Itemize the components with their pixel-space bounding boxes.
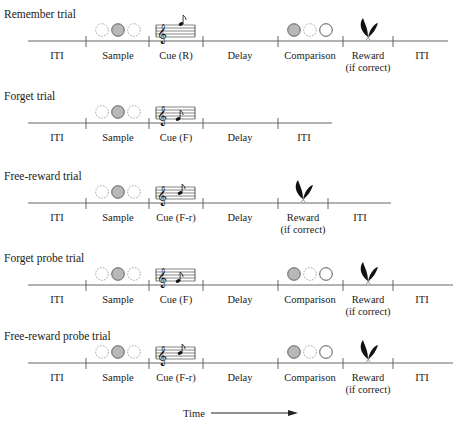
phase-label: Reward <box>352 372 385 383</box>
trial-title: Forget trial <box>4 90 55 103</box>
phase-sublabel: (if correct) <box>345 384 391 396</box>
phase-label: Reward <box>352 50 385 61</box>
trial-title: Remember trial <box>4 8 76 20</box>
trial-title: Free-reward probe trial <box>4 330 111 343</box>
treble-clef-icon: 𝄞 <box>157 105 167 126</box>
comparison-stimuli <box>288 24 333 37</box>
dashed-stimulus-icon <box>96 268 109 281</box>
food-reward-icon <box>361 340 378 362</box>
phase-label: Cue (R) <box>159 50 193 62</box>
phase-sublabel: (if correct) <box>280 224 326 236</box>
trial-forget-probe-trial: Forget probe trialITISampleCue (F)DelayC… <box>4 252 453 318</box>
dashed-stimulus-icon <box>128 268 141 281</box>
filled-stimulus-icon <box>112 106 125 119</box>
phase-label: Sample <box>102 294 134 305</box>
trial-title: Free-reward trial <box>4 170 82 182</box>
trial-remember-trial: Remember trialITISampleCue (R)DelayCompa… <box>4 8 448 74</box>
phase-label: ITI <box>50 294 64 305</box>
food-reward-icon <box>361 262 378 284</box>
filled-stimulus-icon <box>288 268 301 281</box>
phase-label: Comparison <box>284 50 336 61</box>
sample-stimuli <box>96 268 141 281</box>
dashed-stimulus-icon <box>128 24 141 37</box>
filled-stimulus-icon <box>112 346 125 359</box>
phase-label: Cue (F) <box>160 294 193 306</box>
time-axis-legend: Time <box>183 408 298 419</box>
dashed-stimulus-icon <box>128 186 141 199</box>
phase-label: ITI <box>50 212 64 223</box>
phase-label: Cue (F-r) <box>156 212 196 224</box>
phase-label: ITI <box>353 212 367 223</box>
sample-stimuli <box>96 346 141 359</box>
filled-stimulus-icon <box>288 346 301 359</box>
filled-stimulus-icon <box>112 24 125 37</box>
phase-label: Delay <box>227 132 253 143</box>
phase-label: Cue (F-r) <box>156 372 196 384</box>
phase-label: ITI <box>415 372 429 383</box>
open-stimulus-icon <box>320 346 333 359</box>
treble-clef-icon: 𝄞 <box>157 345 167 366</box>
trial-free-reward-probe-trial: Free-reward probe trialITISampleCue (F-r… <box>4 330 453 396</box>
phase-label: Reward <box>352 294 385 305</box>
dashed-stimulus-icon <box>304 346 317 359</box>
phase-label: Comparison <box>284 372 336 383</box>
dashed-stimulus-icon <box>304 268 317 281</box>
open-stimulus-icon <box>320 268 333 281</box>
dashed-stimulus-icon <box>96 24 109 37</box>
phase-label: ITI <box>415 50 429 61</box>
filled-stimulus-icon <box>112 268 125 281</box>
phase-sublabel: (if correct) <box>345 306 391 318</box>
phase-label: ITI <box>50 132 64 143</box>
treble-clef-icon: 𝄞 <box>157 185 167 206</box>
phase-label: Sample <box>102 372 134 383</box>
comparison-stimuli <box>288 346 333 359</box>
dashed-stimulus-icon <box>96 106 109 119</box>
treble-clef-icon: 𝄞 <box>157 267 167 288</box>
dashed-stimulus-icon <box>128 346 141 359</box>
trial-forget-trial: Forget trialITISampleCue (F)DelayITI𝄞 <box>4 90 332 144</box>
sample-stimuli <box>96 24 141 37</box>
time-arrow-head-icon <box>288 410 298 416</box>
phase-sublabel: (if correct) <box>345 62 391 74</box>
phase-label: ITI <box>50 50 64 61</box>
dashed-stimulus-icon <box>96 186 109 199</box>
phase-label: ITI <box>415 294 429 305</box>
trial-title: Forget probe trial <box>4 252 84 265</box>
phase-label: Delay <box>227 294 253 305</box>
time-label: Time <box>183 408 205 419</box>
phase-label: Delay <box>227 50 253 61</box>
trials-group: Remember trialITISampleCue (R)DelayCompa… <box>4 8 453 396</box>
food-reward-icon <box>361 18 378 40</box>
phase-label: Sample <box>102 212 134 223</box>
dashed-stimulus-icon <box>96 346 109 359</box>
treble-clef-icon: 𝄞 <box>157 23 167 44</box>
sample-stimuli <box>96 106 141 119</box>
trial-free-reward-trial: Free-reward trialITISampleCue (F-r)Delay… <box>4 170 391 236</box>
comparison-stimuli <box>288 268 333 281</box>
phase-label: ITI <box>297 132 311 143</box>
filled-stimulus-icon <box>288 24 301 37</box>
phase-label: Cue (F) <box>160 132 193 144</box>
filled-stimulus-icon <box>112 186 125 199</box>
open-stimulus-icon <box>320 24 333 37</box>
phase-label: Sample <box>102 132 134 143</box>
music-cue-R-icon: 𝄞 <box>156 15 195 44</box>
sample-stimuli <box>96 186 141 199</box>
dashed-stimulus-icon <box>304 24 317 37</box>
phase-label: Reward <box>287 212 320 223</box>
phase-label: ITI <box>50 372 64 383</box>
dashed-stimulus-icon <box>128 106 141 119</box>
phase-label: Delay <box>227 212 253 223</box>
food-reward-icon <box>296 180 313 202</box>
phase-label: Sample <box>102 50 134 61</box>
phase-label: Comparison <box>284 294 336 305</box>
phase-label: Delay <box>227 372 253 383</box>
trial-timeline-diagram: Remember trialITISampleCue (R)DelayCompa… <box>0 0 459 432</box>
